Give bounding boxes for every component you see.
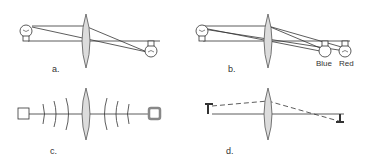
- lens-icon: [264, 88, 272, 140]
- source-square-icon: [18, 108, 29, 119]
- lens-icon: [82, 14, 90, 68]
- lens-icon: [264, 14, 272, 68]
- optics-diagram: [0, 0, 371, 161]
- panel-label-c: c.: [50, 146, 57, 156]
- panel-label-b: b.: [228, 64, 236, 74]
- panel-d: [205, 88, 344, 140]
- panel-c: [18, 88, 160, 140]
- blue-label: Blue: [316, 59, 332, 68]
- red-label: Red: [339, 59, 354, 68]
- source-bulb-icon: [20, 25, 32, 41]
- panel-a: [20, 14, 160, 68]
- lens-icon: [82, 88, 90, 140]
- image-bulb-icon: [145, 41, 157, 57]
- image-square-icon: [149, 108, 160, 119]
- panel-label-a: a.: [52, 64, 60, 74]
- panel-label-d: d.: [226, 146, 234, 156]
- red-image-bulb-icon: [339, 41, 351, 57]
- object-t-icon: [205, 104, 213, 114]
- source-bulb-icon: [196, 25, 208, 41]
